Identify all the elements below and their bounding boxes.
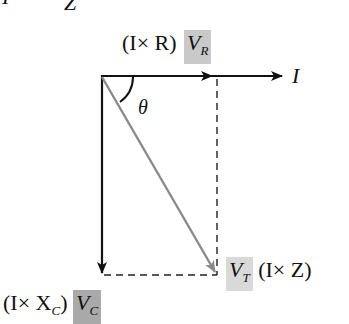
vt-subscript: T xyxy=(242,270,249,285)
vr-subscript: R xyxy=(201,43,209,58)
vr-symbol: V xyxy=(187,30,200,55)
vr-prefix: (I× R) xyxy=(122,30,177,55)
vc-prefix-subscript: C xyxy=(51,303,60,318)
vt-arrow xyxy=(102,77,215,272)
vc-subscript: C xyxy=(89,303,98,318)
vc-label: (I× XC) VC xyxy=(3,290,101,324)
vc-prefix-close: ) xyxy=(60,290,67,315)
theta-label: θ xyxy=(138,94,148,120)
vr-symbol-box: VR xyxy=(184,30,211,64)
vt-symbol-box: VT xyxy=(226,257,253,291)
vr-label: (I× R) VR xyxy=(122,30,211,64)
vc-symbol: V xyxy=(76,290,89,315)
vc-prefix: (I× X xyxy=(3,290,51,315)
vt-symbol: V xyxy=(229,257,242,282)
vt-suffix: (I× Z) xyxy=(258,257,311,282)
theta-arc xyxy=(120,77,133,102)
vt-label: VT (I× Z) xyxy=(226,257,312,291)
vc-symbol-box: VC xyxy=(73,290,101,324)
current-label: I xyxy=(292,63,299,89)
